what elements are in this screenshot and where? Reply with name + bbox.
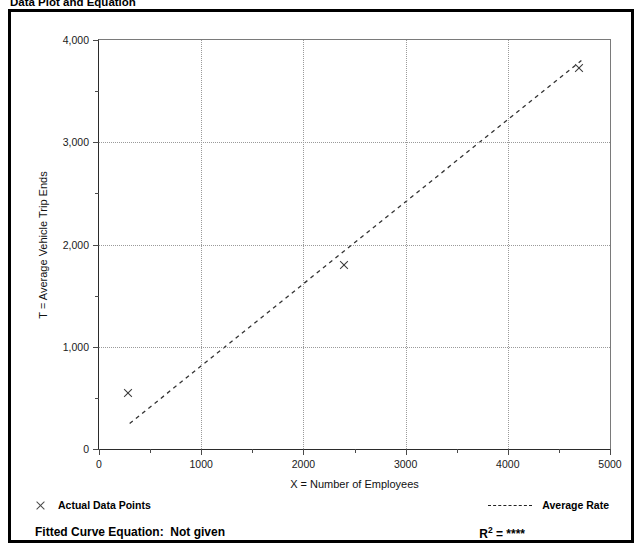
x-axis-minor-tick <box>559 449 560 453</box>
x-marker-icon <box>35 500 46 511</box>
average-rate-line <box>130 60 582 423</box>
r-squared-prefix: R <box>479 527 488 541</box>
y-axis-tick-label: 1,000 <box>63 341 89 353</box>
gridline-horizontal <box>99 142 610 143</box>
y-axis-minor-tick <box>95 296 99 297</box>
x-axis-minor-tick <box>150 449 151 453</box>
gridline-horizontal <box>99 245 610 246</box>
data-point-marker <box>122 387 133 398</box>
y-axis-tick-label: 2,000 <box>63 239 89 251</box>
x-axis-minor-tick <box>457 449 458 453</box>
gridline-horizontal <box>99 347 610 348</box>
x-axis-minor-tick <box>252 449 253 453</box>
gridline-vertical <box>201 40 202 449</box>
fitted-curve-equation-value: Not given <box>170 525 225 539</box>
chart-footer: Fitted Curve Equation: Not given R2 = **… <box>11 525 631 547</box>
y-axis-title: T = Average Vehicle Trip Ends <box>35 39 51 450</box>
y-axis-minor-tick <box>95 398 99 399</box>
legend-label-actual-data-points: Actual Data Points <box>58 499 151 511</box>
legend-item-average-rate: Average Rate <box>488 499 609 511</box>
x-axis-tick-label: 2000 <box>292 458 315 470</box>
x-axis-tick-label: 5000 <box>598 458 621 470</box>
header-strip: Data Plot and Equation <box>0 0 642 9</box>
y-axis-tick <box>93 347 99 348</box>
y-axis-tick-label: 3,000 <box>63 136 89 148</box>
y-axis-tick <box>93 40 99 41</box>
x-axis-tick-label: 4000 <box>496 458 519 470</box>
dashed-line-icon <box>488 505 532 506</box>
legend-item-actual-data-points: Actual Data Points <box>35 499 151 511</box>
legend-label-average-rate: Average Rate <box>542 499 609 511</box>
fitted-curve-equation-label: Fitted Curve Equation: <box>35 525 164 539</box>
r-squared-value: R2 = **** <box>479 525 525 541</box>
data-point-marker <box>339 259 350 270</box>
x-axis-tick <box>610 449 611 455</box>
plot-area: 01,0002,0003,0004,0000100020003000400050… <box>98 39 611 450</box>
r-squared-stars: **** <box>506 527 525 541</box>
x-axis-tick <box>201 449 202 455</box>
y-axis-minor-tick <box>95 91 99 92</box>
data-point-marker <box>574 62 585 73</box>
y-axis-tick-label: 0 <box>83 443 89 455</box>
gridline-vertical <box>303 40 304 449</box>
chart-card: T = Average Vehicle Trip Ends 01,0002,00… <box>8 9 634 543</box>
x-axis-tick-label: 0 <box>96 458 102 470</box>
x-axis-minor-tick <box>355 449 356 453</box>
y-axis-minor-tick <box>95 193 99 194</box>
fitted-curve-equation: Fitted Curve Equation: Not given <box>35 525 225 539</box>
x-axis-tick-label: 1000 <box>190 458 213 470</box>
x-axis-tick <box>406 449 407 455</box>
r-squared-exponent: 2 <box>488 525 493 535</box>
y-axis-tick <box>93 245 99 246</box>
x-axis-tick <box>508 449 509 455</box>
plot-wrap: T = Average Vehicle Trip Ends 01,0002,00… <box>11 12 631 492</box>
x-axis-tick <box>303 449 304 455</box>
x-axis-title: X = Number of Employees <box>98 478 611 490</box>
y-axis-tick <box>93 142 99 143</box>
chart-legend: Actual Data Points Average Rate <box>11 499 631 521</box>
page-title: Data Plot and Equation <box>10 0 136 9</box>
y-axis-tick-label: 4,000 <box>63 34 89 46</box>
x-axis-tick <box>99 449 100 455</box>
y-axis-title-text: T = Average Vehicle Trip Ends <box>37 171 49 318</box>
x-axis-tick-label: 3000 <box>394 458 417 470</box>
r-squared-equals: = <box>496 527 503 541</box>
gridline-vertical <box>508 40 509 449</box>
gridline-vertical <box>406 40 407 449</box>
